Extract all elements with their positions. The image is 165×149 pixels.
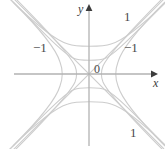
level-label-quadrant4-outer: 1 <box>130 126 137 139</box>
y-axis-arrowhead <box>86 4 93 11</box>
x-axis-label: x <box>153 77 158 89</box>
y-axis-label: y <box>78 3 83 15</box>
level-label-quadrant1-inner: −1 <box>124 41 138 54</box>
level-label-quadrant1-outer: 1 <box>124 10 131 23</box>
origin-label: 0 <box>94 63 100 75</box>
hyperbola-inner-bottom <box>5 88 165 149</box>
level-label-quadrant2-inner: −1 <box>33 41 47 54</box>
hyperbola-level-curve-figure: 1 −1 −1 1 0 y x <box>0 0 165 149</box>
hyperbola-inner-top <box>5 0 165 60</box>
plot-canvas <box>0 0 165 149</box>
